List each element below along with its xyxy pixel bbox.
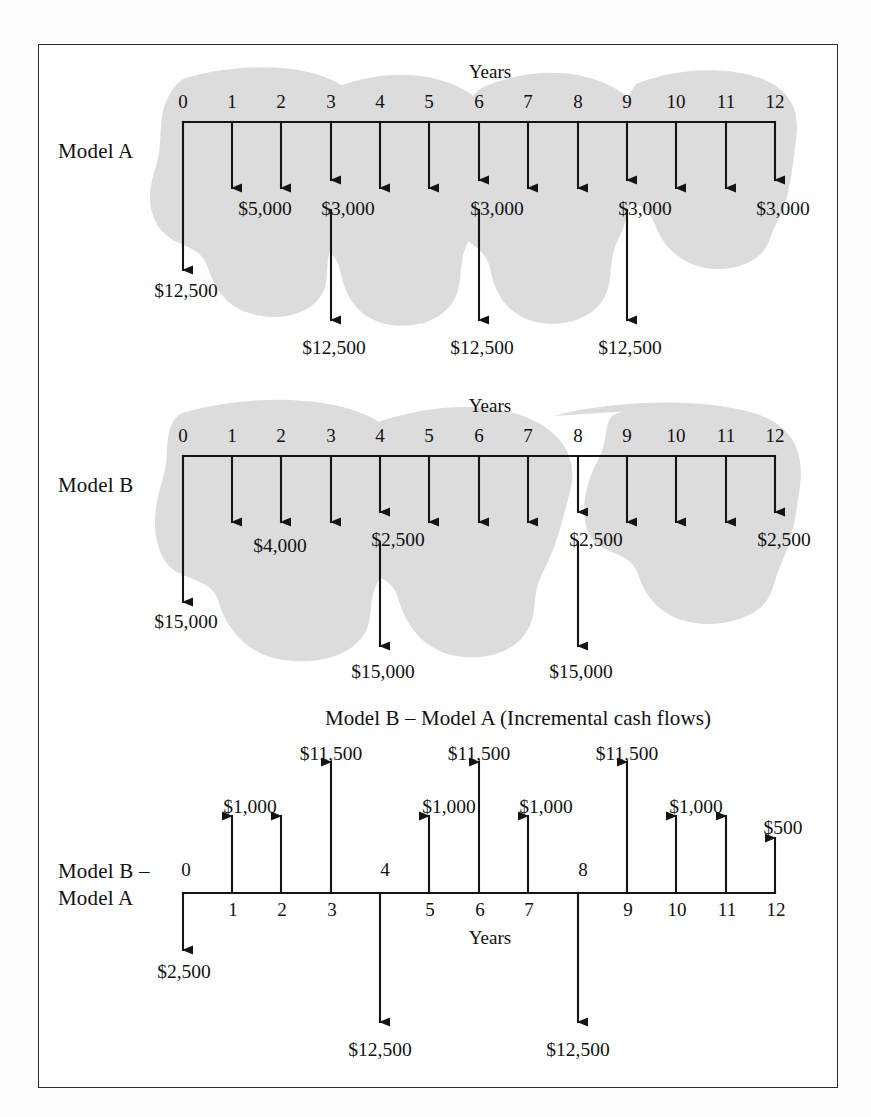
model-a-tick-12: 12 (766, 92, 785, 111)
model-b-amount-year4-major: $15,000 (351, 662, 414, 682)
model-a-tick-3: 3 (326, 92, 336, 111)
incremental-tick-6: 6 (475, 900, 485, 919)
model-b-tick-1: 1 (227, 426, 237, 445)
model-b-amount-year8: $2,500 (569, 530, 623, 550)
model-b-tick-10: 10 (667, 426, 686, 445)
incremental-tick-11: 11 (718, 900, 736, 919)
model-a-amount-year3: $3,000 (321, 199, 375, 219)
incremental-tick-9: 9 (623, 900, 633, 919)
model-a-amount-year0: $12,500 (154, 281, 217, 301)
model-b-tick-5: 5 (424, 426, 434, 445)
incremental-tick-5: 5 (425, 900, 435, 919)
incremental-amount-year3: $11,500 (300, 744, 363, 764)
model-a-amount-year12: $3,000 (756, 199, 810, 219)
model-a-tick-8: 8 (573, 92, 583, 111)
incremental-amount-year10: $1,000 (669, 797, 723, 817)
model-b-tick-4: 4 (375, 426, 385, 445)
model-a-side-label: Model A (58, 141, 134, 162)
model-a-tick-7: 7 (523, 92, 533, 111)
model-a-tick-4: 4 (375, 92, 385, 111)
model-a-tick-0: 0 (178, 92, 188, 111)
incremental-tick-7: 7 (524, 900, 534, 919)
model-b-tick-0: 0 (178, 426, 188, 445)
model-b-tick-3: 3 (326, 426, 336, 445)
model-b-tick-6: 6 (474, 426, 484, 445)
model-b-amount-year8-major: $15,000 (549, 662, 612, 682)
incremental-amount-year5: $1,000 (422, 797, 476, 817)
incremental-amount-year7: $1,000 (519, 797, 573, 817)
model-a-tick-10: 10 (667, 92, 686, 111)
incremental-years-caption: Years (469, 928, 511, 947)
model-b-amount-year2: $4,000 (253, 536, 307, 556)
model-a-tick-6: 6 (474, 92, 484, 111)
incremental-amount-year0: $2,500 (157, 962, 211, 982)
incremental-tick-1: 1 (228, 900, 238, 919)
model-a-tick-11: 11 (717, 92, 735, 111)
model-a-tick-5: 5 (424, 92, 434, 111)
model-b-tick-7: 7 (523, 426, 533, 445)
figure-page: Years Model A 0 1 2 3 4 5 6 7 8 9 10 11 … (0, 0, 871, 1117)
model-a-years-caption: Years (469, 62, 511, 81)
incremental-tick-4: 4 (380, 860, 390, 879)
model-b-tick-9: 9 (622, 426, 632, 445)
model-a-tick-2: 2 (276, 92, 286, 111)
model-b-amount-year12: $2,500 (757, 530, 811, 550)
model-b-tick-12: 12 (766, 426, 785, 445)
incremental-tick-10: 10 (668, 900, 687, 919)
model-a-amount-year6: $3,000 (470, 199, 524, 219)
model-a-amount-year3-major: $12,500 (302, 338, 365, 358)
incremental-side-label: Model B – Model A (58, 858, 150, 912)
cash-flow-diagram (0, 0, 871, 1117)
incremental-amount-year9: $11,500 (596, 744, 659, 764)
incremental-tick-3: 3 (327, 900, 337, 919)
model-a-tick-1: 1 (227, 92, 237, 111)
model-b-tick-11: 11 (717, 426, 735, 445)
incremental-amount-year12: $500 (764, 818, 803, 838)
model-a-amount-year6-major: $12,500 (450, 338, 513, 358)
incremental-tick-0: 0 (181, 860, 191, 879)
incremental-amount-year4: $12,500 (348, 1040, 411, 1060)
incremental-amount-year6: $11,500 (448, 744, 511, 764)
incremental-amount-year8: $12,500 (546, 1040, 609, 1060)
model-a-amount-year9-major: $12,500 (598, 338, 661, 358)
incremental-tick-12: 12 (767, 900, 786, 919)
incremental-tick-8: 8 (578, 860, 588, 879)
model-b-side-label: Model B (58, 475, 134, 496)
model-b-tick-2: 2 (276, 426, 286, 445)
model-a-tick-9: 9 (622, 92, 632, 111)
incremental-title: Model B – Model A (Incremental cash flow… (325, 708, 711, 729)
model-a-amount-year9: $3,000 (618, 199, 672, 219)
incremental-amount-year1: $1,000 (223, 797, 277, 817)
model-b-amount-year4: $2,500 (371, 530, 425, 550)
model-b-tick-8: 8 (573, 426, 583, 445)
incremental-tick-2: 2 (277, 900, 287, 919)
model-b-years-caption: Years (469, 396, 511, 415)
model-a-amount-year1: $5,000 (238, 199, 292, 219)
model-b-amount-year0: $15,000 (154, 612, 217, 632)
